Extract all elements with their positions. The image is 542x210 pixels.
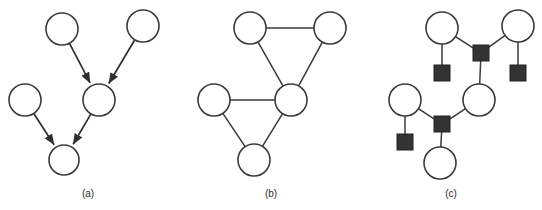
nodes-layer bbox=[9, 10, 534, 179]
variable-node-c_v4 bbox=[389, 84, 421, 116]
arrow-a1-to-a3 bbox=[69, 43, 90, 83]
edge-b3-b5 bbox=[262, 114, 282, 147]
edge-c_v2-c_f1 bbox=[489, 35, 505, 47]
factor-node-c_f3 bbox=[510, 65, 526, 81]
panel-caption-a: (a) bbox=[82, 188, 94, 199]
variable-node-c_v5 bbox=[424, 147, 456, 179]
edge-c_f1-c_v3 bbox=[480, 61, 481, 84]
variable-node-b1 bbox=[234, 12, 266, 44]
variable-node-b5 bbox=[238, 144, 270, 176]
variable-node-b3 bbox=[275, 84, 307, 116]
variable-node-a1 bbox=[46, 13, 78, 45]
arrow-a4-to-a5 bbox=[34, 113, 54, 144]
edge-b1-b3 bbox=[258, 42, 283, 86]
factor-node-c_f5 bbox=[397, 134, 413, 150]
edge-b4-b5 bbox=[223, 113, 245, 146]
variable-node-a4 bbox=[9, 84, 41, 116]
variable-node-a5 bbox=[49, 145, 79, 175]
panel-caption-c: (c) bbox=[445, 188, 457, 199]
factor-node-c_f4 bbox=[434, 116, 450, 132]
edge-b2-b3 bbox=[299, 42, 323, 86]
variable-node-c_v2 bbox=[502, 10, 534, 42]
variable-node-c_v3 bbox=[463, 84, 495, 116]
variable-node-a2 bbox=[127, 10, 159, 42]
arrow-a2-to-a3 bbox=[109, 40, 135, 84]
edge-c_v4-c_f4 bbox=[418, 109, 434, 119]
figure-canvas: (a)(b)(c) bbox=[0, 0, 542, 210]
variable-node-b4 bbox=[198, 84, 230, 116]
variable-node-c_v1 bbox=[426, 12, 458, 44]
edge-c_v1-c_f1 bbox=[455, 37, 473, 48]
variable-node-a3 bbox=[83, 84, 115, 116]
panel-caption-b: (b) bbox=[265, 188, 277, 199]
edge-c_f4-c_v5 bbox=[441, 132, 442, 147]
captions-layer: (a)(b)(c) bbox=[82, 188, 457, 199]
variable-node-b2 bbox=[314, 12, 346, 44]
arrow-a3-to-a5 bbox=[73, 114, 91, 144]
factor-node-c_f1 bbox=[473, 45, 489, 61]
factor-node-c_f2 bbox=[434, 65, 450, 81]
edge-c_v3-c_f4 bbox=[450, 109, 466, 119]
graphical-models-figure: (a)(b)(c) bbox=[0, 0, 542, 210]
